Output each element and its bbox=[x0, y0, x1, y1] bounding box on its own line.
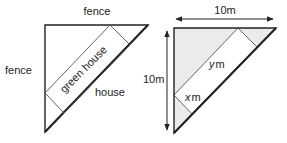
right-diagram: 10m 10m ym xm bbox=[143, 4, 276, 133]
y-unit: m bbox=[216, 58, 225, 70]
y-dimension-label: ym bbox=[208, 58, 225, 70]
house-label: house bbox=[95, 86, 125, 98]
x-variable: x bbox=[184, 91, 191, 103]
top-fence-label: fence bbox=[84, 5, 111, 17]
x-unit: m bbox=[192, 91, 201, 103]
diagram-canvas: fence fence green house house 10m 10m ym… bbox=[0, 0, 287, 143]
left-diagram: fence fence green house house bbox=[5, 5, 148, 132]
height-label: 10m bbox=[143, 73, 164, 85]
x-dimension-label: xm bbox=[184, 91, 201, 103]
width-label: 10m bbox=[214, 4, 235, 16]
left-fence-label: fence bbox=[5, 64, 32, 76]
